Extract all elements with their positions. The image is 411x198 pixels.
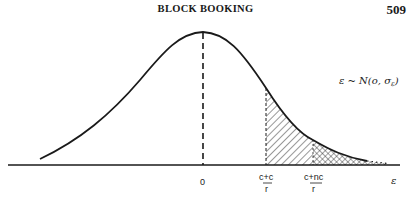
distribution-label: ε ~ N(o, σε): [339, 75, 399, 88]
hatched-region: [266, 80, 313, 165]
normal-distribution-figure: ε ~ N(o, σε) 0 c+c r c+nc r ε: [0, 0, 411, 198]
x-axis-symbol: ε: [391, 175, 396, 186]
tick-2-denominator: r: [312, 184, 315, 194]
tick-label-zero: 0: [200, 177, 205, 187]
tick-2-numerator: c+nc: [304, 172, 324, 182]
tick-1-denominator: r: [265, 184, 268, 194]
tick-1-numerator: c+c: [259, 172, 274, 182]
cross-hatched-region: [313, 120, 388, 165]
